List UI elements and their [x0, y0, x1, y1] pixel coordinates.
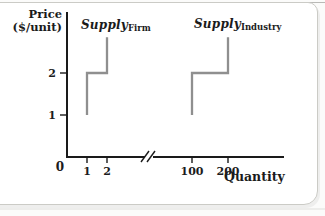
series-label-supply-firm: SupplyFirm — [81, 18, 151, 33]
series-subscript-text: Firm — [128, 23, 151, 33]
x-tick-label: 2 — [103, 165, 111, 178]
series-subscript-text: Industry — [241, 22, 281, 32]
x-tick-label: 1 — [83, 165, 91, 178]
y-tick-label: 1 — [48, 109, 56, 122]
x-axis-title: Quantity — [224, 169, 285, 184]
series-name-text: Supply — [194, 17, 241, 31]
y-axis-title: Price ($/unit) — [4, 8, 62, 33]
supply-curve-firm — [87, 37, 107, 115]
y-tick-label: 2 — [48, 67, 56, 80]
x-tick-label: 100 — [181, 165, 204, 178]
y-axis-title-line1: Price — [4, 8, 62, 21]
y-axis-title-line2: ($/unit) — [4, 21, 62, 34]
series-name-text: Supply — [81, 18, 128, 32]
series-label-supply-industry: SupplyIndustry — [194, 17, 281, 32]
origin-label: 0 — [56, 160, 64, 174]
supply-curve-industry — [192, 37, 228, 115]
